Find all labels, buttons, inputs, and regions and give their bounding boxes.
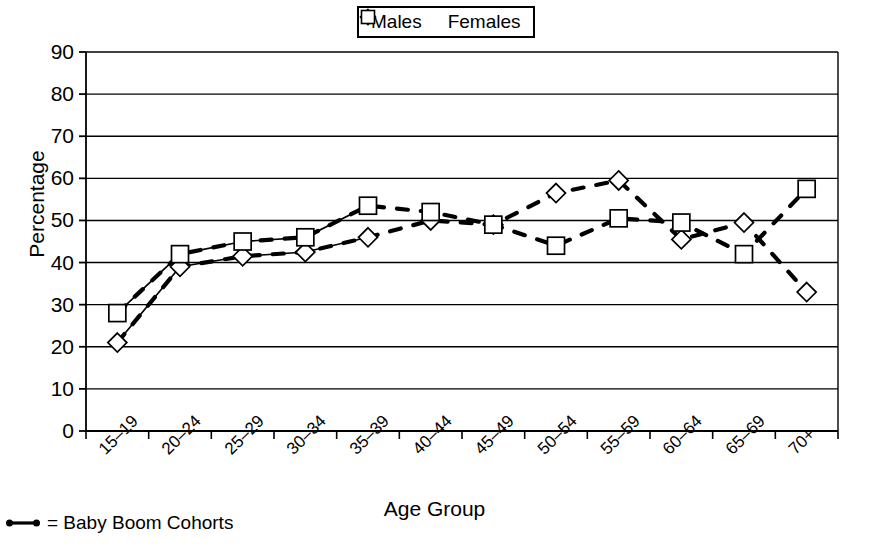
- data-point-marker-females: [798, 180, 815, 197]
- y-tick-label: 90: [28, 40, 74, 64]
- data-point-marker-females: [109, 305, 126, 322]
- y-tick-label: 30: [28, 293, 74, 317]
- data-point-marker-females: [485, 216, 502, 233]
- y-tick-label: 70: [28, 124, 74, 148]
- chart-plot-area: [0, 0, 869, 548]
- data-point-marker-females: [422, 204, 439, 221]
- data-point-marker-females: [548, 237, 565, 254]
- data-point-marker-males: [547, 184, 566, 203]
- y-tick-label: 80: [28, 82, 74, 106]
- data-point-marker-females: [736, 246, 753, 263]
- series-line-dashed-females: [117, 189, 806, 313]
- data-point-marker-males: [359, 228, 378, 247]
- data-point-marker-males: [797, 283, 816, 302]
- y-tick-label: 40: [28, 251, 74, 275]
- data-point-marker-females: [297, 229, 314, 246]
- series-line-dashed-males: [117, 180, 806, 342]
- data-point-marker-females: [610, 210, 627, 227]
- y-tick-label: 0: [28, 419, 74, 443]
- data-point-marker-females: [234, 233, 251, 250]
- y-tick-label: 50: [28, 208, 74, 232]
- y-tick-label: 60: [28, 166, 74, 190]
- y-tick-label: 20: [28, 335, 74, 359]
- y-tick-label: 10: [28, 377, 74, 401]
- data-point-marker-females: [172, 246, 189, 263]
- data-point-marker-females: [360, 197, 377, 214]
- data-point-marker-males: [735, 213, 754, 232]
- data-point-marker-females: [673, 214, 690, 231]
- chart-container: Males Females Percentage Age Group = Bab…: [0, 0, 869, 548]
